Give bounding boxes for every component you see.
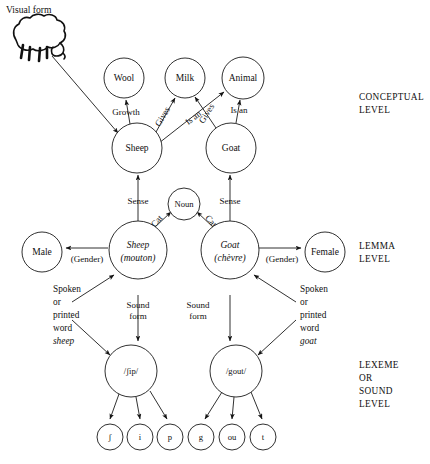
level-lexeme-line-1: LEXEME [359,360,399,370]
level-lexeme-line-4: LEVEL [359,399,390,409]
word-goat-line-5: goat [300,336,317,346]
edge-label-gives-right: Gives [197,101,217,125]
word-goat-line-2: or [300,297,309,307]
word-sheep-line-1: Spoken [53,284,81,294]
node-sheep-lemma-fr-label: (mouton) [121,253,156,264]
edge-sip-p [150,391,167,419]
word-goat-line-4: word [300,323,319,333]
node-phoneme-sh-label: ʃ [108,432,112,442]
node-goat-lemma-label: Goat [221,240,240,250]
word-sheep-line-5: sheep [53,336,75,346]
word-sheep-line-4: word [53,323,72,333]
level-label-conceptual: CONCEPTUAL LEVEL [359,92,424,115]
node-milk-label: Milk [176,73,195,83]
edge-gout-ou [232,397,234,419]
edge-label-soundform-right-2: form [189,311,207,321]
word-goat-line-1: Spoken [300,284,328,294]
visual-form-caption: Visual form [6,4,52,15]
node-goat-lemma-fr-label: (chèvre) [214,253,245,264]
word-sheep-line-3: printed [53,310,80,320]
node-phoneme-g-label: g [199,432,204,442]
edge-label-sense-right: Sense [220,196,241,206]
node-animal-label: Animal [229,73,258,83]
spoken-printed-word-sheep: Spoken or printed word sheep [53,284,81,346]
node-phoneme-ou-label: ou [228,432,237,442]
node-sheep-concept-label: Sheep [125,143,148,153]
level-label-lemma: LEMMA LEVEL [359,241,395,264]
level-conceptual-line-2: LEVEL [359,105,390,115]
word-goat-line-3: printed [300,310,327,320]
sheep-illustration [14,14,66,61]
node-noun-label: Noun [174,199,194,209]
edge-label-soundform-right-1: Sound [186,300,210,310]
edge-word-sheep-to-lexeme [72,320,110,355]
edge-label-soundform-left-1: Sound [126,300,150,310]
edge-label-sense-left: Sense [128,196,149,206]
level-lexeme-line-3: SOUND [359,386,393,396]
word-sheep-line-2: or [53,297,62,307]
node-male-label: Male [32,247,52,257]
node-gout-label: /gout/ [226,366,247,376]
level-label-lexeme: LEXEME OR SOUND LEVEL [359,360,399,409]
node-wool-label: Wool [114,73,135,83]
edge-gout-g [205,392,222,419]
edge-sip-i [136,397,140,419]
diagram-canvas: Wool Milk Animal Sheep Goat Growth Gives… [0,0,430,464]
node-female-label: Female [311,247,339,257]
edge-label-soundform-left-2: form [129,311,147,321]
edge-word-goat-to-lexeme [258,320,296,355]
level-conceptual-line-1: CONCEPTUAL [359,92,424,102]
edge-word-goat-to-lemma [254,275,296,302]
edge-label-is-an-right: Is an [230,105,248,115]
word-production-diagram: Wool Milk Animal Sheep Goat Growth Gives… [0,0,430,464]
edge-sip-sh [110,394,119,419]
node-sheep-lemma-label: Sheep [127,240,150,250]
level-lemma-line-2: LEVEL [359,254,390,264]
level-lexeme-line-2: OR [359,373,373,383]
edge-gout-t [251,392,262,419]
node-phoneme-p-label: p [168,432,172,442]
edge-label-gender-right: (Gender) [266,254,298,264]
node-goat-concept-label: Goat [222,143,241,153]
edge-label-growth: Growth [112,107,140,117]
node-sip-label: /ʃip/ [124,366,139,376]
spoken-printed-word-goat: Spoken or printed word goat [300,284,328,346]
level-lemma-line-1: LEMMA [359,241,395,251]
edge-label-gender-left: (Gender) [71,254,103,264]
